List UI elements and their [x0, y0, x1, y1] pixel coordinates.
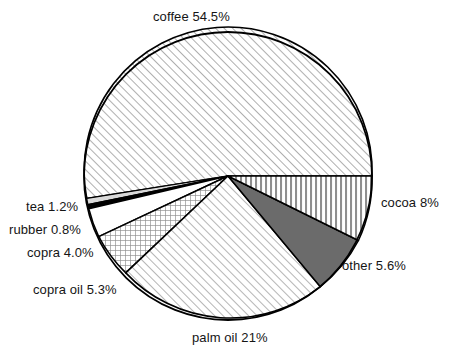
pie-chart: coffee 54.5% cocoa 8% other 5.6% palm oi…: [0, 0, 450, 354]
pie-chart-canvas: [0, 0, 450, 354]
pie-label-coffee: coffee 54.5%: [153, 9, 230, 24]
pie-label-copra: copra 4.0%: [27, 245, 94, 260]
pie-label-copra-oil: copra oil 5.3%: [33, 282, 117, 297]
pie-label-other: other 5.6%: [342, 258, 406, 273]
pie-slices: [84, 27, 372, 318]
pie-slice-coffee[interactable]: [84, 27, 372, 198]
pie-label-cocoa: cocoa 8%: [381, 195, 439, 210]
pie-label-palm-oil: palm oil 21%: [192, 330, 268, 345]
pie-label-rubber: rubber 0.8%: [9, 222, 81, 237]
pie-label-tea: tea 1.2%: [26, 199, 78, 214]
